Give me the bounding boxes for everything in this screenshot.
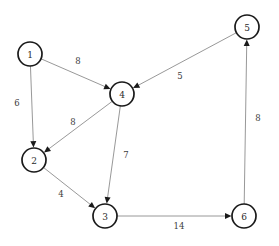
graph-edge-6-to-5	[244, 39, 250, 204]
graph-node-5[interactable]: 5	[235, 15, 259, 39]
graph-edge-5-to-4	[133, 33, 236, 88]
graph-node-6[interactable]: 6	[232, 204, 256, 228]
graph-edge-4-to-3	[105, 106, 121, 204]
edge-weight-6-5: 8	[255, 113, 260, 123]
node-label-3: 3	[102, 212, 108, 222]
edge-weight-2-3: 4	[58, 189, 63, 199]
node-label-1: 1	[27, 50, 33, 60]
graph-edge-4-to-2	[44, 101, 112, 152]
graph-node-4[interactable]: 4	[110, 82, 134, 106]
edge-weight-4-3: 7	[123, 150, 128, 160]
edge-weight-3-6: 14	[174, 221, 185, 231]
graph-node-3[interactable]: 3	[93, 204, 117, 228]
edge-weight-1-2: 6	[14, 98, 19, 108]
edge-weights-layer: 868741485	[14, 56, 260, 231]
graph-node-2[interactable]: 2	[22, 148, 46, 172]
node-label-2: 2	[31, 156, 37, 166]
edge-weight-4-2: 8	[70, 117, 75, 127]
graph-edge-1-to-2	[30, 66, 36, 148]
graph-edge-3-to-6	[117, 213, 232, 219]
node-label-5: 5	[244, 23, 250, 33]
node-label-6: 6	[241, 212, 247, 222]
nodes-layer: 123456	[18, 15, 259, 228]
graph-diagram-canvas: 868741485 123456	[0, 0, 279, 246]
edge-weight-5-4: 5	[177, 71, 182, 81]
edge-weight-1-4: 8	[75, 56, 80, 66]
graph-node-1[interactable]: 1	[18, 42, 42, 66]
graph-svg: 868741485 123456	[0, 0, 279, 246]
graph-edge-2-to-3	[43, 167, 95, 208]
node-label-4: 4	[119, 90, 125, 100]
